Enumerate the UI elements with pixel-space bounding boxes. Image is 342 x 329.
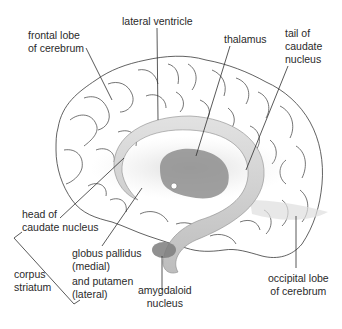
label-thalamus: thalamus <box>224 33 267 46</box>
label-globus-pallidus: globus pallidus (medial) and putamen (la… <box>72 247 141 301</box>
foramen-dot <box>171 183 177 189</box>
label-tail-caudate: tail of caudate nucleus <box>285 27 322 66</box>
label-corpus-striatum: corpus striatum <box>14 268 51 294</box>
label-lateral-ventricle: lateral ventricle <box>122 15 193 28</box>
amygdaloid-nucleus <box>152 242 176 258</box>
label-amygdaloid: amygdaloid nucleus <box>138 284 192 310</box>
label-head-caudate: head of caudate nucleus <box>22 208 98 234</box>
label-frontal-lobe: frontal lobe of cerebrum <box>28 29 84 55</box>
label-occipital-lobe: occipital lobe of cerebrum <box>268 272 329 298</box>
